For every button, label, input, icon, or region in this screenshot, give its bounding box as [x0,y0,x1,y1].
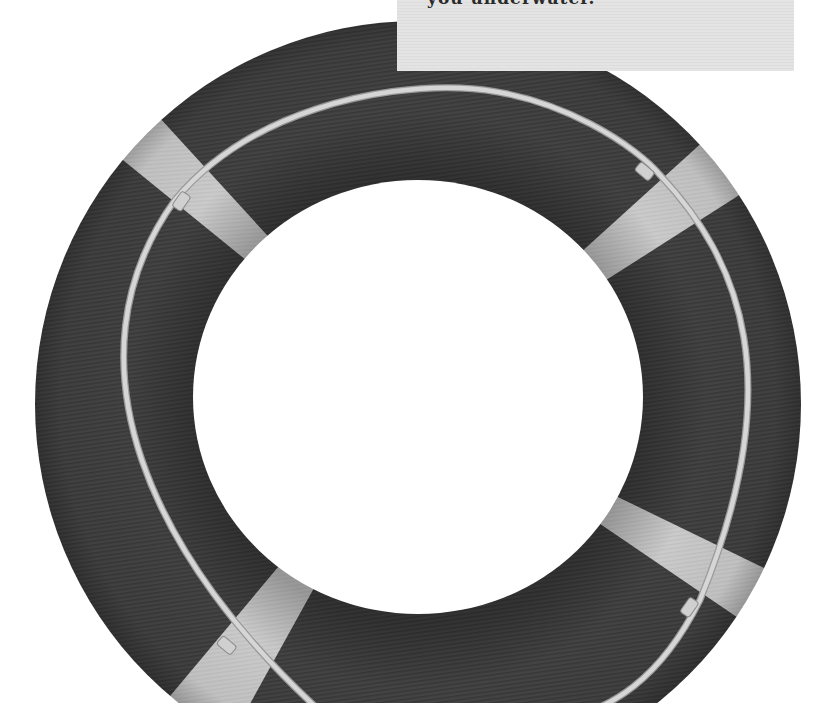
page-canvas: you underwater. [0,0,832,703]
caption-text: you underwater. [427,0,596,8]
life-ring-illustration [0,0,832,703]
caption-note: you underwater. [397,0,794,71]
